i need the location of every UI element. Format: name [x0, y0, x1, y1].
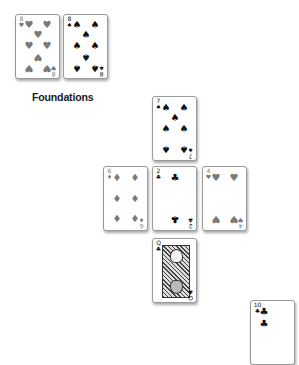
spade-icon: ♠	[170, 113, 180, 123]
card-index-bottom: 2♣	[187, 217, 194, 229]
spade-icon: ♠	[179, 124, 189, 134]
card-index-bottom: 6♦	[138, 217, 145, 229]
card-index-top: 2♣	[155, 168, 162, 180]
spade-icon: ♠	[179, 103, 189, 113]
club-icon: ♣	[170, 173, 180, 183]
heart-icon: ♥	[42, 41, 52, 51]
queen-head-icon	[170, 249, 183, 263]
tableau-card-2-clubs[interactable]: 2♣ ♣ ♣ 2♣	[152, 166, 197, 231]
spade-icon: ♠	[72, 63, 82, 73]
heart-icon: ♥	[33, 30, 43, 40]
spade-icon: ♠	[161, 144, 171, 154]
spade-icon: ♠	[81, 30, 91, 40]
card-index-bottom: 8♠	[98, 65, 105, 77]
spade-icon: ♠	[72, 41, 82, 51]
tableau-card-7-spades[interactable]: 7♠ ♠ ♠ ♠ ♠ ♠ ♠ ♠ 7♠	[152, 96, 197, 161]
card-index-bottom: 7♠	[187, 147, 194, 159]
foundation-card-8-hearts[interactable]: 8♥ ♥ ♥ ♥ ♥ ♥ ♥ ♥ ♥ 8♥	[15, 14, 60, 79]
heart-icon: ♥	[33, 52, 43, 62]
spade-icon: ♠	[161, 124, 171, 134]
card-index-bottom: 4♥	[237, 217, 244, 229]
diamond-icon: ♦	[112, 214, 122, 224]
diamond-icon: ♦	[112, 173, 122, 183]
spade-icon: ♠	[90, 41, 100, 51]
spade-icon: ♠	[81, 52, 91, 62]
heart-icon: ♥	[42, 20, 52, 30]
spade-icon: ♠	[90, 20, 100, 30]
heart-icon: ♥	[211, 214, 221, 224]
heart-icon: ♥	[24, 41, 34, 51]
tableau-card-4-hearts[interactable]: 4♥ ♥ ♥ ♥ ♥ 4♥	[202, 166, 247, 231]
card-index-bottom: Q♣	[187, 289, 194, 301]
tableau-card-6-diamonds[interactable]: 6♦ ♦ ♦ ♦ ♦ ♦ ♦ 6♦	[103, 166, 148, 231]
diamond-icon: ♦	[130, 173, 140, 183]
heart-icon: ♥	[211, 173, 221, 183]
club-icon: ♣	[259, 307, 269, 317]
queen-head-inverted-icon	[170, 280, 183, 294]
card-index-bottom: 8♥	[50, 65, 57, 77]
club-icon: ♣	[170, 214, 180, 224]
tableau-card-queen-clubs[interactable]: Q♣ Q♣	[152, 238, 197, 303]
foundations-label: Foundations	[32, 91, 93, 103]
heart-icon: ♥	[24, 20, 34, 30]
club-icon: ♣	[259, 319, 269, 329]
spade-icon: ♠	[72, 20, 82, 30]
foundation-card-8-spades[interactable]: 8♠ ♠ ♠ ♠ ♠ ♠ ♠ ♠ ♠ 8♠	[63, 14, 108, 79]
diamond-icon: ♦	[130, 194, 140, 204]
card-index-top: Q♣	[155, 240, 162, 252]
diamond-icon: ♦	[112, 194, 122, 204]
heart-icon: ♥	[24, 63, 34, 73]
spade-icon: ♠	[161, 103, 171, 113]
partial-card-10-clubs[interactable]: 10♣ ♣ ♣	[250, 300, 295, 365]
heart-icon: ♥	[229, 173, 239, 183]
queen-face-art	[162, 245, 190, 298]
